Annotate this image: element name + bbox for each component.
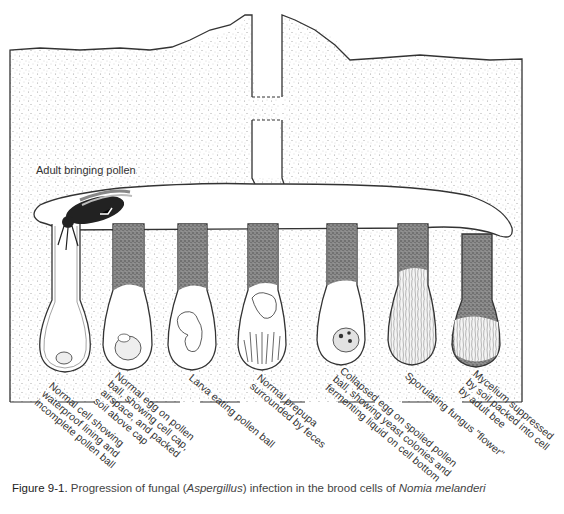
annotation-adult-bringing-pollen: Adult bringing pollen (36, 164, 136, 176)
caption-genus: Aspergillus (187, 482, 243, 494)
caption-text-2: ) infection in the brood cells of (243, 482, 399, 494)
caption-text-1: Progression of fungal ( (68, 482, 187, 494)
caption-figure-number: Figure 9-1. (12, 482, 68, 494)
soil-left (10, 15, 280, 178)
caption-species: Nomia melanderi (399, 482, 486, 494)
soil-right (280, 15, 522, 178)
figure-caption: Figure 9-1. Progression of fungal (Asper… (12, 482, 486, 494)
